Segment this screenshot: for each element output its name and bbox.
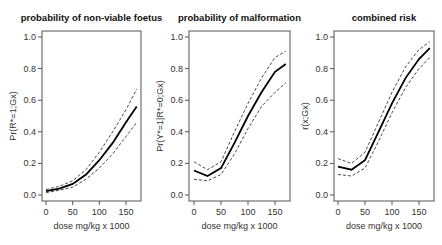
y-tick-label: 0.8: [315, 64, 328, 74]
y-tick-label: 0.8: [170, 64, 183, 74]
panel-2: probability of malformation0.00.20.40.60…: [155, 12, 301, 231]
panel-3: combined risk0.00.20.40.60.81.0050100150…: [300, 12, 434, 231]
x-tick-label: 50: [360, 207, 370, 217]
y-axis-label: Pr(Y*=1|R*=0;Gx): [155, 80, 165, 151]
y-tick-label: 1.0: [23, 32, 36, 42]
y-tick-label: 0.4: [170, 127, 183, 137]
x-tick-label: 100: [384, 207, 399, 217]
confidence-bound-line: [194, 51, 286, 170]
panel-title: probability of malformation: [178, 12, 301, 23]
x-tick-label: 150: [267, 207, 282, 217]
y-axis-label: Pr(R*=1;Gx): [8, 91, 18, 140]
x-tick-label: 50: [216, 207, 226, 217]
y-tick-label: 1.0: [315, 32, 328, 42]
x-axis-label: dose mg/kg x 1000: [53, 221, 129, 231]
confidence-bound-line: [338, 42, 430, 164]
plot-frame: [42, 31, 141, 201]
x-tick-label: 100: [240, 207, 255, 217]
y-tick-label: 0.0: [23, 190, 36, 200]
x-tick-label: 0: [191, 207, 196, 217]
y-tick-label: 0.6: [170, 95, 183, 105]
y-tick-label: 0.6: [23, 95, 36, 105]
x-axis-label: dose mg/kg x 1000: [201, 221, 277, 231]
estimate-line: [46, 107, 137, 192]
x-axis-label: dose mg/kg x 1000: [346, 221, 422, 231]
y-axis-label: r(x;Gx): [300, 102, 310, 130]
x-tick-label: 0: [43, 207, 48, 217]
y-tick-label: 0.0: [170, 190, 183, 200]
y-tick-label: 0.2: [170, 158, 183, 168]
confidence-bound-line: [46, 89, 137, 189]
y-tick-label: 0.2: [23, 158, 36, 168]
y-tick-label: 1.0: [170, 32, 183, 42]
confidence-bound-line: [46, 122, 137, 192]
panel-title: combined risk: [352, 12, 417, 23]
panel-1: probability of non-viable foetus0.00.20.…: [8, 12, 162, 231]
confidence-bound-line: [338, 58, 430, 177]
y-tick-label: 0.2: [315, 158, 328, 168]
estimate-line: [338, 48, 430, 170]
x-tick-label: 150: [411, 207, 426, 217]
y-tick-label: 0.4: [23, 127, 36, 137]
x-tick-label: 100: [92, 207, 107, 217]
x-tick-label: 150: [118, 207, 133, 217]
y-tick-label: 0.4: [315, 127, 328, 137]
x-tick-label: 50: [68, 207, 78, 217]
y-tick-label: 0.6: [315, 95, 328, 105]
y-tick-label: 0.0: [315, 190, 328, 200]
panel-title: probability of non-viable foetus: [21, 12, 162, 23]
y-tick-label: 0.8: [23, 64, 36, 74]
chart-figure: probability of non-viable foetus0.00.20.…: [0, 0, 442, 245]
x-tick-label: 0: [335, 207, 340, 217]
